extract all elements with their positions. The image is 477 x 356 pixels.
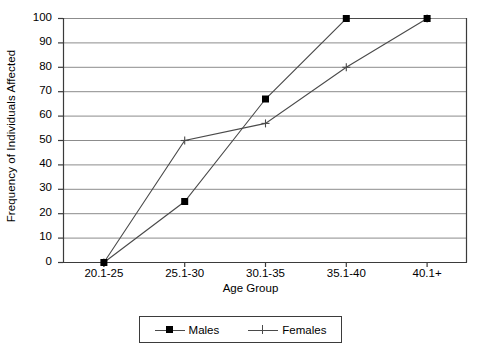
x-axis-label: Age Group bbox=[0, 282, 477, 294]
x-axis-tick-label: 30.1-35 bbox=[221, 268, 311, 280]
y-tick-marks bbox=[58, 19, 63, 263]
x-axis-tick-label: 20.1-25 bbox=[59, 268, 149, 280]
legend-label-females: Females bbox=[282, 324, 326, 336]
x-axis-label-text: Age Group bbox=[223, 282, 279, 294]
females-marker-icon bbox=[248, 325, 278, 335]
line-chart-figure: Frequency of Individuals Affected 100 90… bbox=[0, 0, 477, 356]
legend-entry-males: Males bbox=[155, 324, 220, 336]
x-axis-tick-label: 40.1+ bbox=[382, 268, 472, 280]
filled-square-icon bbox=[166, 326, 173, 333]
males-marker-icon bbox=[155, 325, 185, 335]
chart-plot-area bbox=[0, 0, 477, 356]
gridlines bbox=[63, 19, 467, 239]
x-axis-tick-label: 25.1-30 bbox=[140, 268, 230, 280]
x-axis-tick-label: 35.1-40 bbox=[301, 268, 391, 280]
legend-label-males: Males bbox=[189, 324, 220, 336]
chart-legend: Males Females bbox=[139, 316, 342, 343]
legend-entry-females: Females bbox=[248, 324, 326, 336]
